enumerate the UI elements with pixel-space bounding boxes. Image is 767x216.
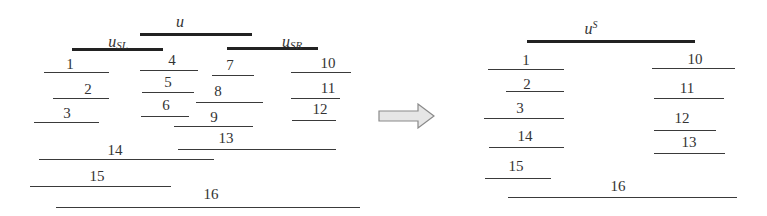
right-interval-13-label: 13 xyxy=(682,135,697,150)
left-interval-3-label: 3 xyxy=(63,106,71,121)
right-interval-14-label: 14 xyxy=(518,129,533,144)
right-interval-14-line xyxy=(489,147,564,148)
right-interval-13-line xyxy=(654,153,725,154)
left-parent-u-sr-subscript: SR xyxy=(290,39,302,51)
left-interval-4-label: 4 xyxy=(168,53,176,68)
left-parent-u-sl-label: uSL xyxy=(108,34,128,51)
left-interval-15-line xyxy=(30,186,171,187)
left-interval-12-line xyxy=(292,120,336,121)
left-interval-8-label: 8 xyxy=(214,84,222,99)
left-interval-7-label-text: 7 xyxy=(226,57,234,73)
left-interval-12-label: 12 xyxy=(313,102,328,117)
left-interval-10-label-text: 10 xyxy=(321,55,336,71)
right-interval-13-label-text: 13 xyxy=(682,134,697,150)
right-interval-1-label: 1 xyxy=(522,53,530,68)
left-interval-7-line xyxy=(212,75,254,76)
left-interval-16-label: 16 xyxy=(204,187,219,202)
left-interval-7-label: 7 xyxy=(226,58,234,73)
left-interval-14-label: 14 xyxy=(108,143,123,158)
left-interval-1-line xyxy=(44,72,109,73)
left-interval-4-label-text: 4 xyxy=(168,52,176,68)
left-interval-8-line xyxy=(196,102,263,103)
left-parent-u-label-text: u xyxy=(176,13,184,30)
right-interval-16-label: 16 xyxy=(611,179,626,194)
right-interval-16-label-text: 16 xyxy=(611,178,626,194)
left-parent-u-label: u xyxy=(176,14,184,30)
left-interval-2-line xyxy=(53,98,109,99)
left-interval-6-label: 6 xyxy=(162,98,170,113)
right-interval-11-label: 11 xyxy=(680,81,694,96)
right-interval-12-line xyxy=(654,130,716,131)
right-interval-10-label: 10 xyxy=(688,52,703,67)
right-arrow-icon xyxy=(378,103,436,129)
left-interval-13-line xyxy=(178,149,336,150)
left-interval-12-label-text: 12 xyxy=(313,101,328,117)
left-interval-9-line xyxy=(174,126,253,127)
left-interval-3-line xyxy=(34,122,99,123)
left-interval-6-label-text: 6 xyxy=(162,97,170,113)
right-interval-3-label: 3 xyxy=(516,101,524,116)
right-parent-u-s-superscript: S xyxy=(593,19,598,30)
interval-diagram: uuSLuSR12345678910111213141516uS12314151… xyxy=(0,0,767,216)
left-interval-13-label: 13 xyxy=(219,131,234,146)
right-interval-2-label: 2 xyxy=(523,77,531,92)
right-interval-2-line xyxy=(506,91,564,92)
left-interval-11-label-text: 11 xyxy=(321,80,335,96)
left-parent-u-sl-subscript: SL xyxy=(116,39,128,51)
left-interval-15-label-text: 15 xyxy=(90,168,105,184)
right-parent-u-s-label: uS xyxy=(585,20,598,37)
left-interval-5-label-text: 5 xyxy=(164,74,172,90)
left-parent-u-sl-label-text: u xyxy=(108,33,116,50)
left-parent-u-sr-line xyxy=(227,47,318,50)
right-interval-12-label-text: 12 xyxy=(675,110,690,126)
left-interval-11-line xyxy=(291,98,340,99)
right-parent-u-s-label-text: u xyxy=(585,20,593,37)
right-interval-16-line xyxy=(508,197,737,198)
left-interval-1-label: 1 xyxy=(66,57,74,72)
left-interval-1-label-text: 1 xyxy=(66,56,74,72)
left-interval-15-label: 15 xyxy=(90,169,105,184)
right-interval-10-label-text: 10 xyxy=(688,51,703,67)
left-interval-16-line xyxy=(56,207,360,208)
left-interval-8-label-text: 8 xyxy=(214,83,222,99)
right-interval-3-line xyxy=(484,118,564,119)
right-parent-u-s-line xyxy=(527,40,695,43)
left-interval-2-label: 2 xyxy=(84,82,92,97)
right-interval-1-label-text: 1 xyxy=(522,52,530,68)
right-interval-15-line xyxy=(485,178,551,179)
right-interval-1-line xyxy=(488,69,564,70)
right-interval-2-label-text: 2 xyxy=(523,76,531,92)
left-interval-2-label-text: 2 xyxy=(84,81,92,97)
left-interval-3-label-text: 3 xyxy=(63,105,71,121)
right-interval-15-label-text: 15 xyxy=(509,158,524,174)
left-parent-u-line xyxy=(140,33,252,36)
left-interval-14-line xyxy=(39,159,214,160)
left-interval-9-label: 9 xyxy=(210,110,218,125)
left-interval-5-line xyxy=(142,92,194,93)
right-interval-11-label-text: 11 xyxy=(680,80,694,96)
left-interval-6-line xyxy=(141,116,189,117)
left-interval-4-line xyxy=(140,70,198,71)
left-parent-u-sr-label-text: u xyxy=(282,33,290,50)
right-interval-15-label: 15 xyxy=(509,159,524,174)
left-interval-9-label-text: 9 xyxy=(210,109,218,125)
left-interval-13-label-text: 13 xyxy=(219,130,234,146)
right-interval-14-label-text: 14 xyxy=(518,128,533,144)
left-interval-10-label: 10 xyxy=(321,56,336,71)
right-interval-11-line xyxy=(654,98,724,99)
left-interval-10-line xyxy=(291,72,351,73)
left-interval-5-label: 5 xyxy=(164,75,172,90)
left-parent-u-sr-label: uSR xyxy=(282,34,302,51)
right-interval-10-line xyxy=(652,68,735,69)
right-interval-3-label-text: 3 xyxy=(516,100,524,116)
left-interval-11-label: 11 xyxy=(321,81,335,96)
right-interval-12-label: 12 xyxy=(675,111,690,126)
left-interval-14-label-text: 14 xyxy=(108,142,123,158)
left-interval-16-label-text: 16 xyxy=(204,186,219,202)
